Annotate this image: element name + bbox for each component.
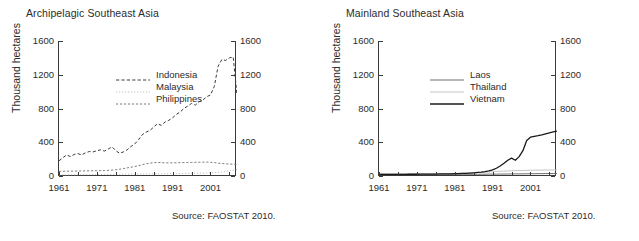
y-tick-label-right-0: 0 — [240, 171, 245, 181]
legend-label-indonesia: Indonesia — [156, 69, 197, 80]
x-tick-mark-2001 — [210, 172, 211, 176]
x-tick-mark-1961 — [59, 172, 60, 176]
x-tick-mark-1966 — [398, 172, 399, 176]
plot-lines-archipelagic — [59, 41, 237, 176]
x-tick-label-1981: 1981 — [124, 182, 145, 193]
x-tick-label-2001: 2001 — [520, 182, 541, 193]
y-tick-label-right-1200: 1200 — [240, 70, 261, 80]
y-tick-mark-right-0 — [551, 176, 555, 177]
y-tick-label-right-800: 800 — [560, 104, 576, 114]
x-tick-mark-1991 — [173, 172, 174, 176]
y-tick-mark-left-1200 — [59, 75, 63, 76]
y-tick-mark-right-800 — [551, 109, 555, 110]
panel-title-archipelagic: Archipelagic Southeast Asia — [26, 7, 159, 19]
y-tick-label-left-1600: 1600 — [33, 36, 54, 46]
legend-item-laos[interactable]: Laos — [430, 68, 506, 80]
y-tick-label-left-0: 0 — [369, 171, 374, 181]
x-tick-label-1961: 1961 — [368, 182, 389, 193]
x-tick-label-1991: 1991 — [162, 182, 183, 193]
panel-title-mainland: Mainland Southeast Asia — [346, 7, 464, 19]
y-tick-label-left-400: 400 — [38, 137, 54, 147]
y-tick-mark-left-0 — [379, 176, 383, 177]
series-line-philippines — [59, 162, 237, 171]
x-tick-mark-1971 — [97, 172, 98, 176]
y-tick-mark-right-400 — [551, 142, 555, 143]
legend-label-philippines: Philippines — [156, 93, 202, 104]
x-tick-mark-1981 — [135, 172, 136, 176]
x-tick-label-2001: 2001 — [200, 182, 221, 193]
legend-label-laos: Laos — [470, 69, 491, 80]
legend-item-indonesia[interactable]: Indonesia — [116, 68, 202, 80]
y-tick-mark-right-1600 — [551, 41, 555, 42]
y-tick-label-right-0: 0 — [560, 171, 565, 181]
x-tick-mark-1966 — [78, 172, 79, 176]
x-tick-label-1971: 1971 — [86, 182, 107, 193]
y-tick-mark-left-1200 — [379, 75, 383, 76]
y-tick-label-left-800: 800 — [38, 104, 54, 114]
y-tick-label-left-1200: 1200 — [353, 70, 374, 80]
chart-panel-archipelagic: Archipelagic Southeast Asia Thousand hec… — [0, 0, 319, 241]
y-tick-label-left-0: 0 — [49, 171, 54, 181]
x-tick-label-1971: 1971 — [406, 182, 427, 193]
plot-lines-mainland — [379, 41, 557, 176]
y-axis-title-left: Thousand hectares — [10, 8, 22, 128]
legend-label-thailand: Thailand — [470, 81, 506, 92]
figure-container: Archipelagic Southeast Asia Thousand hec… — [0, 0, 639, 241]
y-tick-mark-left-1600 — [379, 41, 383, 42]
legend-archipelagic: IndonesiaMalaysiaPhilippines — [116, 68, 202, 104]
y-tick-mark-right-400 — [231, 142, 235, 143]
y-tick-mark-left-400 — [379, 142, 383, 143]
x-tick-label-1981: 1981 — [444, 182, 465, 193]
y-tick-label-right-1600: 1600 — [240, 36, 261, 46]
series-line-vietnam — [379, 131, 557, 174]
plot-area-archipelagic: 0040040080080012001200160016001961197119… — [58, 41, 236, 176]
x-tick-mark-1996 — [512, 172, 513, 176]
x-tick-mark-1991 — [493, 172, 494, 176]
legend-label-vietnam: Vietnam — [470, 93, 505, 104]
y-tick-label-right-1600: 1600 — [560, 36, 581, 46]
y-tick-mark-right-1200 — [551, 75, 555, 76]
y-tick-mark-left-1600 — [59, 41, 63, 42]
y-tick-label-left-800: 800 — [358, 104, 374, 114]
y-tick-mark-left-800 — [59, 109, 63, 110]
y-tick-mark-right-1200 — [231, 75, 235, 76]
x-tick-mark-2006 — [549, 172, 550, 176]
source-note-left: Source: FAOSTAT 2010. — [172, 210, 276, 221]
x-tick-label-1991: 1991 — [482, 182, 503, 193]
y-tick-mark-right-0 — [231, 176, 235, 177]
y-tick-mark-right-800 — [231, 109, 235, 110]
legend-mainland: LaosThailandVietnam — [430, 68, 506, 104]
source-note-right: Source: FAOSTAT 2010. — [492, 210, 596, 221]
x-tick-mark-1981 — [455, 172, 456, 176]
x-tick-mark-1996 — [192, 172, 193, 176]
x-tick-mark-1976 — [116, 172, 117, 176]
y-tick-label-right-400: 400 — [240, 137, 256, 147]
y-tick-mark-right-1600 — [231, 41, 235, 42]
x-tick-mark-1961 — [379, 172, 380, 176]
x-tick-label-1961: 1961 — [48, 182, 69, 193]
legend-label-malaysia: Malaysia — [156, 81, 194, 92]
x-tick-mark-1971 — [417, 172, 418, 176]
y-tick-label-left-400: 400 — [358, 137, 374, 147]
y-tick-label-right-400: 400 — [560, 137, 576, 147]
y-tick-mark-left-800 — [379, 109, 383, 110]
y-tick-label-right-1200: 1200 — [560, 70, 581, 80]
chart-panel-mainland: Mainland Southeast Asia Thousand hectare… — [320, 0, 639, 241]
y-tick-label-right-800: 800 — [240, 104, 256, 114]
y-tick-mark-left-0 — [59, 176, 63, 177]
x-tick-mark-1986 — [154, 172, 155, 176]
y-axis-title-right: Thousand hectares — [330, 8, 342, 128]
x-tick-mark-1986 — [474, 172, 475, 176]
x-tick-mark-2001 — [530, 172, 531, 176]
x-tick-mark-2006 — [229, 172, 230, 176]
y-tick-label-left-1600: 1600 — [353, 36, 374, 46]
plot-area-mainland: 0040040080080012001200160016001961197119… — [378, 41, 556, 176]
x-tick-mark-1976 — [436, 172, 437, 176]
y-tick-mark-left-400 — [59, 142, 63, 143]
y-tick-label-left-1200: 1200 — [33, 70, 54, 80]
